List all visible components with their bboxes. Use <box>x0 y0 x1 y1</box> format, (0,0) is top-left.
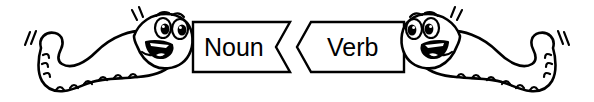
left-worm <box>25 7 193 91</box>
right-worm-head-motion-lines <box>451 7 462 20</box>
worms-and-banners-artwork: Noun Verb <box>0 0 594 102</box>
right-worm-tail-motion-lines <box>558 31 569 45</box>
noun-banner-label: Noun <box>204 33 264 61</box>
verb-banner[interactable]: Verb <box>297 22 404 72</box>
illustration-canvas: Noun Verb <box>0 0 594 102</box>
right-worm <box>401 7 569 91</box>
left-worm-head-motion-lines <box>132 7 143 20</box>
left-worm-tail-motion-lines <box>25 31 36 45</box>
noun-banner[interactable]: Noun <box>193 22 290 72</box>
verb-banner-label: Verb <box>327 33 378 61</box>
